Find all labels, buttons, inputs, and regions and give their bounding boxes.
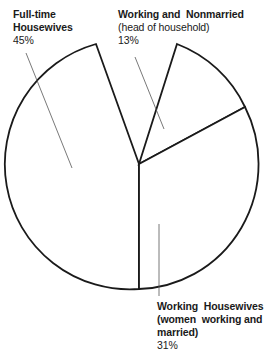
- label-working-housewives: Working Housewives (women working and ma…: [157, 300, 263, 352]
- label-fulltime-percent: 45%: [13, 34, 73, 47]
- leader-line-nonmarried: [135, 57, 164, 129]
- label-fulltime-line1: Full-time: [13, 8, 73, 21]
- label-nonmarried-line1: Working and Nonmarried: [118, 8, 244, 21]
- label-fulltime-line2: Housewives: [13, 21, 73, 34]
- label-workinghw-line2: (women working and: [157, 313, 263, 326]
- label-fulltime-housewives: Full-time Housewives 45%: [13, 8, 73, 47]
- label-workinghw-percent: 31%: [157, 339, 263, 352]
- label-workinghw-line1: Working Housewives: [157, 300, 263, 313]
- label-workinghw-line3: married): [157, 326, 263, 339]
- label-working-nonmarried: Working and Nonmarried (head of househol…: [118, 8, 244, 47]
- slice-fulltime-housewives: [5, 44, 139, 289]
- label-nonmarried-line2: (head of household): [118, 21, 244, 34]
- label-nonmarried-percent: 13%: [118, 34, 244, 47]
